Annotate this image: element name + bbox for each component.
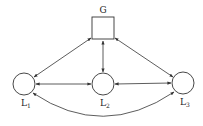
- diagram-canvas: G L1 L2 L3: [0, 0, 203, 126]
- node-l1-label: L1: [21, 98, 31, 109]
- edge-l2-l3: [115, 83, 171, 84]
- edge-g-l1: [34, 38, 91, 77]
- node-l3: L3: [172, 72, 194, 108]
- edge-g-l3: [115, 38, 173, 77]
- node-l2-label: L2: [100, 98, 110, 109]
- node-g-label: G: [99, 5, 106, 15]
- node-l1: L1: [13, 73, 35, 109]
- node-l3-label: L3: [180, 97, 190, 108]
- network-diagram: G L1 L2 L3: [0, 0, 203, 126]
- node-g: G: [92, 5, 114, 39]
- node-l2: L2: [92, 73, 114, 109]
